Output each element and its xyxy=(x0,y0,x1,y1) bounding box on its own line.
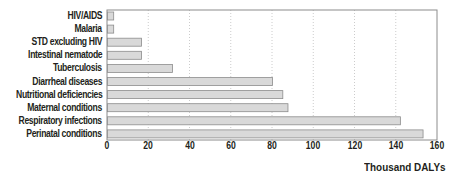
bar xyxy=(108,104,288,112)
category-label: Intestinal nematode xyxy=(28,49,102,61)
x-tick-label: 160 xyxy=(424,140,450,152)
bar xyxy=(108,130,424,138)
x-tick-label: 100 xyxy=(300,140,326,152)
bar xyxy=(108,117,401,125)
category-label: STD excluding HIV xyxy=(31,36,102,48)
x-axis-title: Thousand DALYs xyxy=(364,161,446,173)
bar-chart: HIV/AIDSMalariaSTD excluding HIVIntestin… xyxy=(0,0,467,175)
x-tick-label: 80 xyxy=(259,140,285,152)
category-label: Maternal conditions xyxy=(27,102,102,114)
category-label: Respiratory infections xyxy=(19,115,102,127)
category-label: Diarrheal diseases xyxy=(32,76,102,88)
bar xyxy=(108,38,142,46)
category-label: HIV/AIDS xyxy=(67,10,102,22)
category-label: Tuberculosis xyxy=(53,62,102,74)
bar xyxy=(108,64,173,72)
x-tick-label: 60 xyxy=(218,140,244,152)
bar xyxy=(108,51,142,59)
x-tick-label: 0 xyxy=(94,140,120,152)
category-label: Perinatal conditions xyxy=(27,128,102,140)
x-tick-label: 140 xyxy=(383,140,409,152)
x-tick-label: 120 xyxy=(342,140,368,152)
bar xyxy=(108,12,114,20)
bar xyxy=(108,91,283,99)
category-label: Nutritional deficiencies xyxy=(16,89,102,101)
bar xyxy=(108,25,114,33)
bar xyxy=(108,78,273,86)
x-tick-label: 40 xyxy=(177,140,203,152)
x-tick-label: 20 xyxy=(135,140,161,152)
category-label: Malaria xyxy=(75,23,102,35)
